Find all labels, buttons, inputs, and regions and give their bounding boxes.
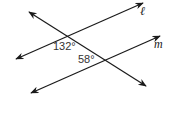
angle-label-58: 58°: [78, 53, 95, 65]
line-m: [31, 36, 160, 93]
diagram-canvas: ℓ m 132° 58°: [0, 0, 174, 113]
line-m-label: m: [154, 37, 163, 51]
angle-label-132: 132°: [53, 40, 76, 52]
transversal-line: [29, 12, 146, 86]
line-l: [16, 3, 143, 59]
line-l-label: ℓ: [140, 4, 145, 18]
